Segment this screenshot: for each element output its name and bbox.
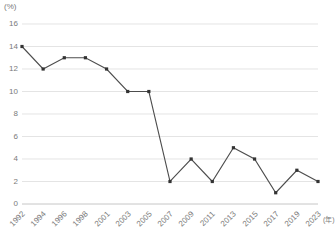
data-point-marker xyxy=(232,146,235,149)
data-point-marker xyxy=(126,90,129,93)
data-point-marker xyxy=(253,157,256,160)
y-axis-tick-label: 10 xyxy=(0,88,18,96)
data-point-marker xyxy=(274,191,277,194)
x-axis-unit-label: (年) xyxy=(323,216,335,223)
y-axis-tick-label: 2 xyxy=(0,178,18,186)
gridlines xyxy=(22,24,318,204)
data-point-marker xyxy=(42,67,45,70)
data-point-markers xyxy=(20,45,319,194)
data-point-marker xyxy=(147,90,150,93)
y-axis-tick-label: 14 xyxy=(0,43,18,51)
data-point-marker xyxy=(190,157,193,160)
data-point-marker xyxy=(105,67,108,70)
data-point-marker xyxy=(20,45,23,48)
y-axis-tick-label: 12 xyxy=(0,65,18,73)
data-series-line xyxy=(22,47,318,193)
y-axis-tick-label: 0 xyxy=(0,200,18,208)
y-axis-tick-label: 4 xyxy=(0,155,18,163)
data-point-marker xyxy=(316,180,319,183)
data-point-marker xyxy=(84,56,87,59)
y-axis-tick-label: 6 xyxy=(0,133,18,141)
data-point-marker xyxy=(211,180,214,183)
data-point-marker xyxy=(63,56,66,59)
y-axis-tick-label: 16 xyxy=(0,20,18,28)
data-point-marker xyxy=(295,169,298,172)
data-point-marker xyxy=(168,180,171,183)
y-axis-tick-label: 8 xyxy=(0,110,18,118)
